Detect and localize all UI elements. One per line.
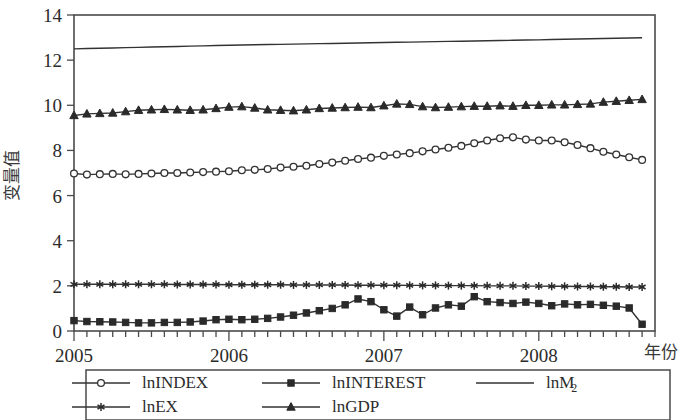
- series-marker: [406, 150, 413, 157]
- series-marker: [484, 298, 490, 304]
- series-marker: [226, 316, 232, 322]
- series-marker: [393, 151, 400, 158]
- series-marker: [290, 163, 297, 170]
- series-marker: [148, 170, 155, 177]
- series-marker: [226, 168, 233, 175]
- y-tick-label: 6: [53, 186, 63, 207]
- series-marker: [497, 299, 503, 305]
- series-marker: [329, 305, 335, 311]
- legend-label: lnINDEX: [142, 373, 208, 392]
- series-marker: [135, 171, 142, 178]
- series-marker: [548, 137, 555, 144]
- series-marker: [71, 317, 77, 323]
- legend-sample-marker: [288, 380, 294, 386]
- series-marker: [122, 171, 129, 178]
- chart-background: [0, 0, 683, 420]
- chart-figure: 02468101214 2005200620072008 变量值 年份 lnIN…: [0, 0, 683, 420]
- x-tick-label: 2006: [210, 345, 248, 366]
- legend-label: lnEX: [142, 397, 178, 416]
- series-marker: [200, 169, 207, 176]
- series-marker: [574, 302, 580, 308]
- series-marker: [174, 319, 180, 325]
- series-marker: [497, 135, 504, 142]
- series-marker: [161, 319, 167, 325]
- series-marker: [148, 320, 154, 326]
- series-marker: [97, 319, 103, 325]
- series-marker: [187, 169, 194, 176]
- series-marker: [510, 134, 517, 141]
- series-marker: [187, 319, 193, 325]
- series-marker: [639, 157, 646, 164]
- series-marker: [264, 166, 271, 173]
- series-marker: [394, 313, 400, 319]
- series-marker: [432, 146, 439, 153]
- series-marker: [71, 170, 78, 177]
- series-marker: [536, 300, 542, 306]
- series-marker: [587, 301, 593, 307]
- series-marker: [419, 148, 426, 155]
- series-marker: [110, 319, 116, 325]
- series-marker: [432, 305, 438, 311]
- series-marker: [252, 316, 258, 322]
- y-axis-title: 变量值: [2, 150, 22, 201]
- series-marker: [613, 151, 620, 158]
- y-tick-label: 2: [53, 276, 63, 297]
- series-marker: [84, 318, 90, 324]
- legend-label: lnGDP: [332, 397, 379, 416]
- series-marker: [613, 303, 619, 309]
- series-marker: [277, 164, 284, 171]
- series-marker: [238, 167, 245, 174]
- series-marker: [342, 157, 349, 164]
- x-tick-label: 2005: [55, 345, 93, 366]
- series-marker: [316, 161, 323, 168]
- series-marker: [523, 299, 529, 305]
- series-marker: [290, 312, 296, 318]
- series-marker: [264, 315, 270, 321]
- series-marker: [316, 307, 322, 313]
- series-marker: [303, 162, 310, 169]
- y-tick-label: 0: [53, 321, 63, 342]
- series-marker: [277, 314, 283, 320]
- series-marker: [639, 321, 645, 327]
- series-marker: [574, 142, 581, 149]
- series-marker: [471, 140, 478, 147]
- series-marker: [161, 170, 168, 177]
- series-marker: [368, 298, 374, 304]
- series-marker: [406, 304, 412, 310]
- series-marker: [626, 305, 632, 311]
- series-marker: [522, 136, 529, 143]
- y-tick-label: 8: [53, 140, 63, 161]
- series-marker: [368, 154, 375, 161]
- y-tick-label: 4: [53, 231, 63, 252]
- x-tick-label: 2007: [365, 345, 403, 366]
- series-marker: [561, 301, 567, 307]
- series-marker: [213, 317, 219, 323]
- legend-label-subscript: 2: [571, 381, 577, 395]
- series-marker: [471, 293, 477, 299]
- series-marker: [626, 154, 633, 161]
- legend-sample-marker: [98, 380, 105, 387]
- series-marker: [561, 139, 568, 146]
- line-chart: 02468101214 2005200620072008 变量值 年份 lnIN…: [0, 0, 683, 420]
- legend-label: lnM: [546, 373, 574, 392]
- series-marker: [239, 317, 245, 323]
- series-marker: [445, 302, 451, 308]
- series-marker: [303, 310, 309, 316]
- series-marker: [355, 156, 362, 163]
- series-marker: [122, 319, 128, 325]
- y-tick-label: 14: [43, 5, 63, 26]
- y-tick-label: 10: [43, 95, 62, 116]
- x-tick-label: 2008: [520, 345, 558, 366]
- series-marker: [342, 302, 348, 308]
- series-marker: [600, 148, 607, 155]
- series-marker: [458, 143, 465, 150]
- series-marker: [380, 152, 387, 159]
- series-marker: [135, 320, 141, 326]
- series-marker: [355, 296, 361, 302]
- series-marker: [458, 303, 464, 309]
- legend-label: lnINTEREST: [332, 373, 426, 392]
- series-marker: [484, 137, 491, 144]
- series-marker: [84, 171, 91, 178]
- series-marker: [535, 137, 542, 144]
- series-marker: [510, 300, 516, 306]
